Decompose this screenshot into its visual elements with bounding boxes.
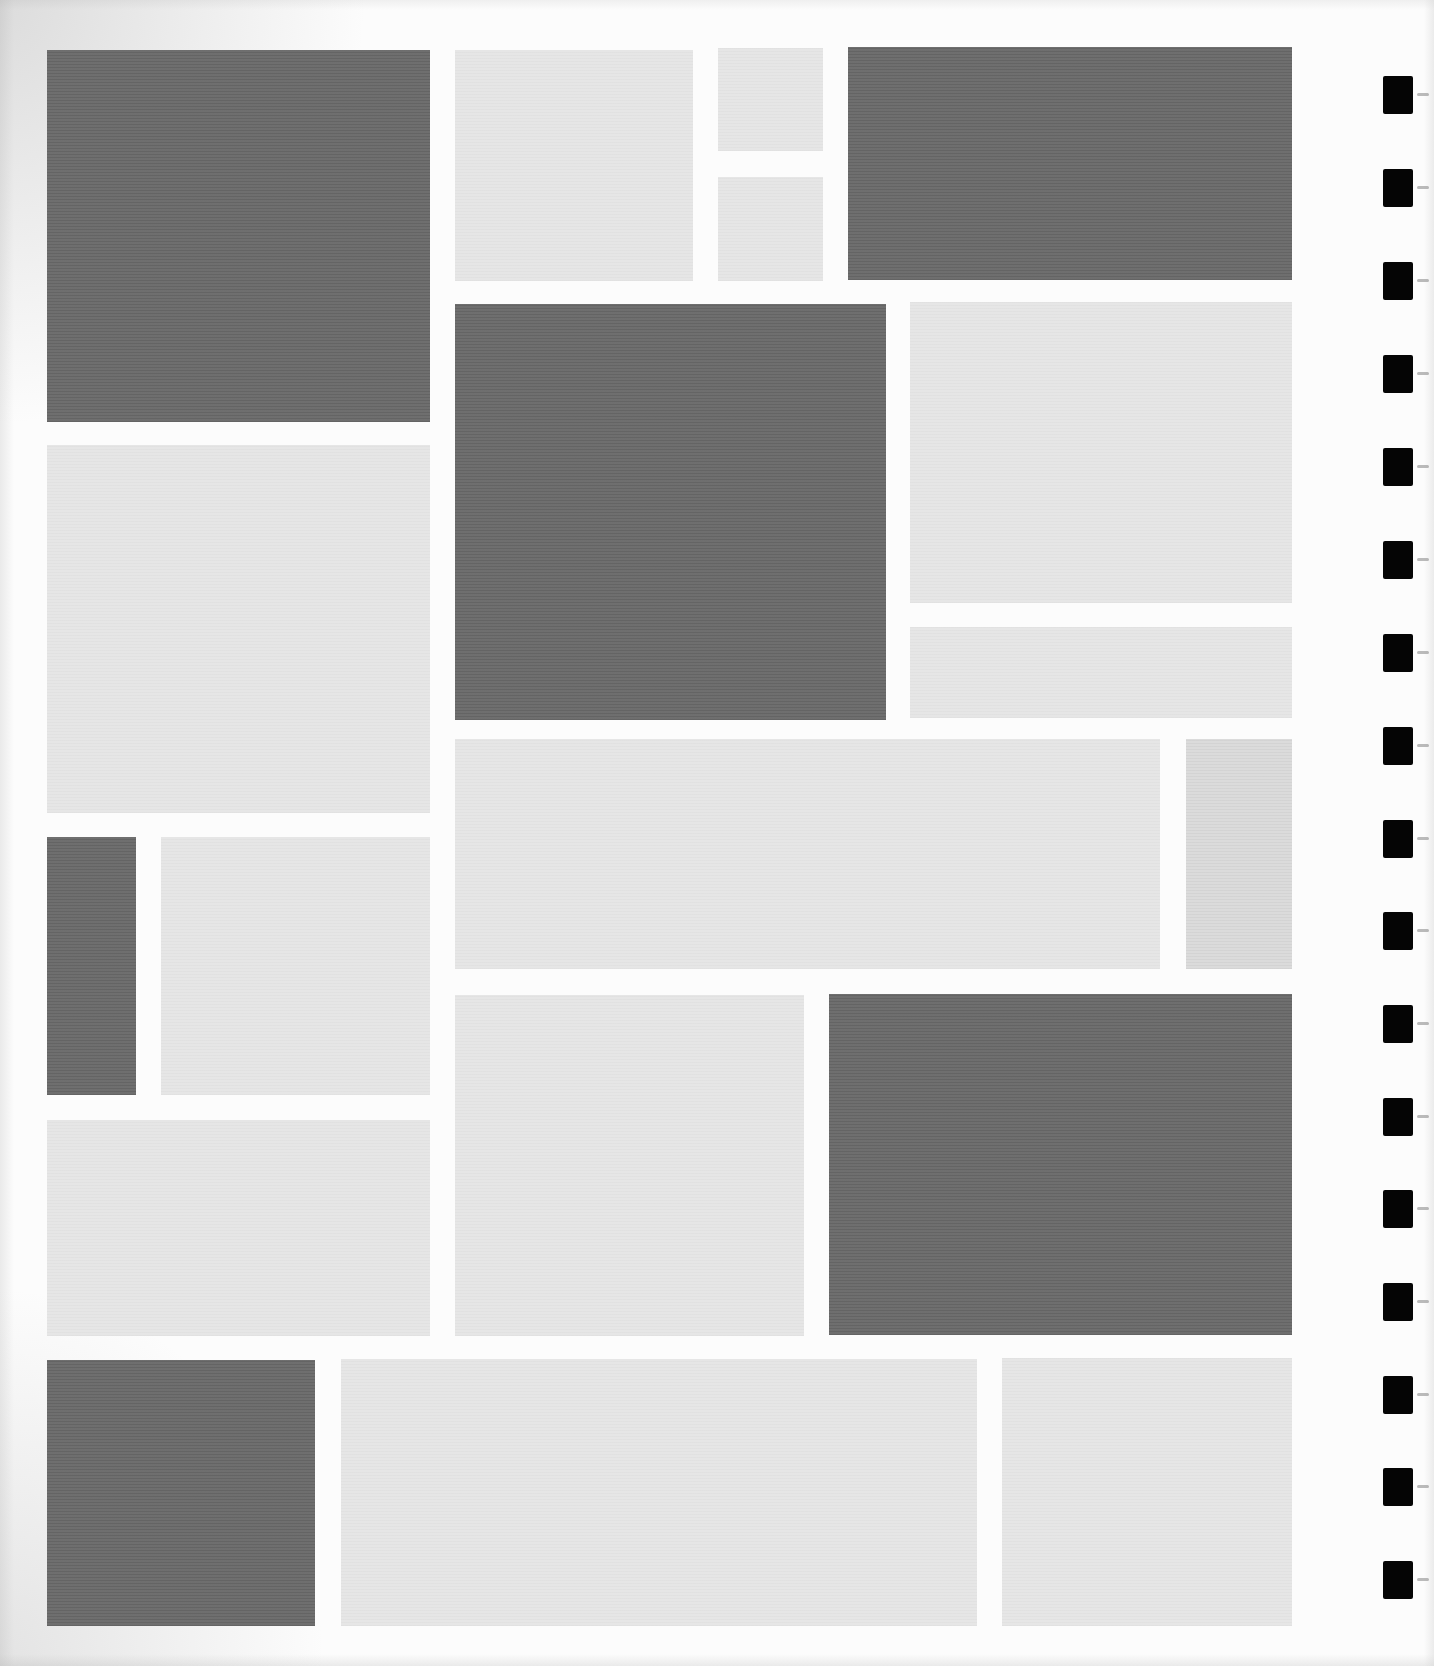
binding-hole-icon bbox=[1383, 448, 1413, 486]
binding-hole-icon bbox=[1383, 912, 1413, 950]
binding-hole-icon bbox=[1383, 1468, 1413, 1506]
binding-hole-icon bbox=[1383, 1283, 1413, 1321]
block-left-light-tall bbox=[47, 445, 430, 813]
binding-hole-icon bbox=[1383, 1376, 1413, 1414]
block-r1-small-bottom bbox=[718, 177, 823, 281]
binding-hole-icon bbox=[1383, 355, 1413, 393]
binding-hole-icon bbox=[1383, 1098, 1413, 1136]
binding-hole-icon bbox=[1383, 76, 1413, 114]
block-bottom-right-light bbox=[1002, 1358, 1292, 1626]
block-r1-right-dark bbox=[848, 47, 1292, 280]
block-right-light-tall bbox=[910, 302, 1292, 603]
block-center-light-lower bbox=[455, 995, 804, 1336]
block-left-light-square bbox=[161, 837, 430, 1095]
binding-hole-icon bbox=[1383, 634, 1413, 672]
binding-hole-icon bbox=[1383, 727, 1413, 765]
binding-hole-icon bbox=[1383, 1190, 1413, 1228]
binding-hole-icon bbox=[1383, 262, 1413, 300]
binding-hole-icon bbox=[1383, 541, 1413, 579]
block-center-dark bbox=[455, 304, 886, 720]
block-r1-light bbox=[455, 50, 693, 281]
block-bottom-center-light bbox=[341, 1359, 977, 1626]
block-r1-small-top bbox=[718, 48, 823, 151]
block-left-dark-narrow bbox=[47, 837, 136, 1095]
binding-hole-icon bbox=[1383, 1005, 1413, 1043]
block-right-dark-lower bbox=[829, 994, 1292, 1335]
binding-hole-icon bbox=[1383, 169, 1413, 207]
block-right-light-strip bbox=[910, 627, 1292, 718]
block-left-light-lower bbox=[47, 1120, 430, 1336]
block-bottom-left-dark bbox=[47, 1360, 315, 1626]
binding-hole-icon bbox=[1383, 820, 1413, 858]
block-right-mid-narrow bbox=[1186, 739, 1292, 969]
binding-hole-icon bbox=[1383, 1561, 1413, 1599]
block-r1-left-dark bbox=[47, 50, 430, 422]
block-center-light-wide bbox=[455, 739, 1160, 969]
